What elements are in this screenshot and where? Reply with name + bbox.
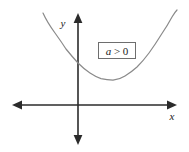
x-axis-label: x xyxy=(169,110,175,122)
y-axis-label: y xyxy=(60,17,66,29)
y-axis-top-arrowhead xyxy=(74,13,83,23)
condition-label: a > 0 xyxy=(106,45,129,57)
parabola-figure: y x a > 0 xyxy=(0,0,189,152)
parabola-diagram-svg: y x a > 0 xyxy=(0,0,189,152)
condition-value: 0 xyxy=(123,45,129,57)
x-axis-left-arrowhead xyxy=(12,101,22,110)
x-axis-right-arrowhead xyxy=(167,101,177,110)
y-axis-bottom-arrowhead xyxy=(74,135,83,145)
